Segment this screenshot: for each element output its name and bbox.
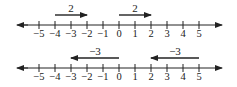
movement-label: −3 <box>89 45 101 57</box>
tick-label: 0 <box>116 71 121 82</box>
tick-label: −3 <box>65 71 76 82</box>
movement-label: 2 <box>132 2 138 14</box>
tick-label: 4 <box>180 28 186 39</box>
tick-label: −4 <box>49 71 61 82</box>
tick-label: 1 <box>132 71 137 82</box>
tick-label: 3 <box>164 71 169 82</box>
tick-label: 2 <box>148 71 153 82</box>
tick-label: 3 <box>164 28 169 39</box>
tick-label: −5 <box>33 28 44 39</box>
number-line-diagram: −5−4−3−2−101234522−5−4−3−2−1012345−3−3 <box>0 0 237 87</box>
tick-label: −4 <box>49 28 61 39</box>
movement-label: −3 <box>169 45 181 57</box>
tick-label: −5 <box>33 71 44 82</box>
tick-label: 0 <box>116 28 121 39</box>
tick-label: 5 <box>196 28 201 39</box>
number-line-top: −5−4−3−2−101234522 <box>17 2 222 39</box>
movement-label: 2 <box>68 2 74 14</box>
tick-label: −1 <box>97 28 108 39</box>
number-line-bottom: −5−4−3−2−1012345−3−3 <box>17 45 222 82</box>
tick-label: −1 <box>97 71 108 82</box>
tick-label: −3 <box>65 28 76 39</box>
tick-label: 1 <box>132 28 137 39</box>
tick-label: 5 <box>196 71 201 82</box>
tick-label: −2 <box>81 28 92 39</box>
tick-label: 4 <box>180 71 186 82</box>
tick-label: −2 <box>81 71 92 82</box>
tick-label: 2 <box>148 28 153 39</box>
